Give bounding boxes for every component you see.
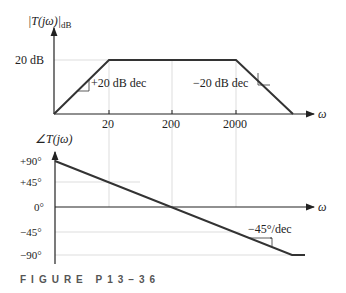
figure-caption: FIGURE P13–36: [20, 274, 160, 285]
magnitude-ylabel: |T(jω)|: [28, 14, 61, 28]
x-tick-2000: 2000: [223, 117, 247, 131]
magnitude-plot: |T(jω)| dB 20 dB 20 200 2000 +20 dB dec …: [15, 14, 326, 131]
magnitude-xlabel: ω: [318, 107, 326, 121]
phase-slope-label: −45°/dec: [248, 222, 292, 236]
x-tick-200: 200: [162, 117, 180, 131]
bode-plot: |T(jω)| dB 20 dB 20 200 2000 +20 dB dec …: [0, 0, 346, 293]
phase-xlabel: ω: [318, 200, 326, 214]
y-tick-20db: 20 dB: [15, 53, 44, 67]
magnitude-ylabel-sub: dB: [61, 20, 72, 30]
x-tick-20: 20: [102, 117, 114, 131]
phase-plot: ∠T(jω) +90° +45° 0° −45° −90° −45°/dec ω: [20, 125, 326, 264]
y-tick-plus45: +45°: [20, 176, 42, 188]
y-tick-minus90: −90°: [20, 249, 42, 261]
y-tick-0: 0°: [34, 201, 44, 213]
slope-left-label: +20 dB dec: [91, 76, 146, 90]
slope-right-label: −20 dB dec: [193, 76, 248, 90]
phase-curve: [55, 161, 305, 255]
y-tick-minus45: −45°: [20, 226, 42, 238]
magnitude-curve: [54, 60, 293, 114]
y-tick-plus90: +90°: [20, 155, 42, 167]
phase-ylabel: ∠T(jω): [35, 132, 72, 146]
